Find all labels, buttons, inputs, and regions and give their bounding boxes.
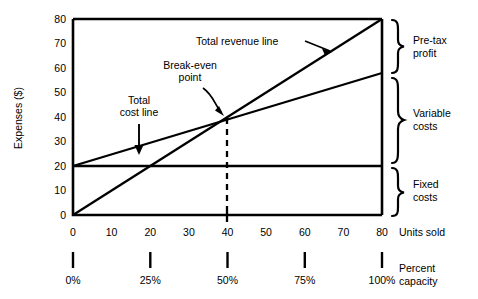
- total-revenue-arrow-shaft: [305, 41, 330, 51]
- y-axis-ticks: 80 70 60 50 40 30 20 10 0: [54, 13, 66, 221]
- x-tick-50: 50: [260, 226, 272, 238]
- units-sold-label: Units sold: [399, 226, 445, 238]
- break-even-label-line2: point: [179, 71, 202, 83]
- total-cost-label-line2: cost line: [120, 106, 159, 118]
- y-tick-70: 70: [54, 37, 66, 49]
- y-tick-40: 40: [54, 111, 66, 123]
- percent-tick-0: 0%: [65, 274, 80, 286]
- x-tick-0: 0: [70, 226, 76, 238]
- x-tick-70: 70: [338, 226, 350, 238]
- percent-tick-75: 75%: [294, 274, 315, 286]
- break-even-annotation: Break-even point: [163, 59, 224, 116]
- break-even-chart: 80 70 60 50 40 30 20 10 0 Expenses ($): [0, 0, 478, 299]
- y-tick-80: 80: [54, 13, 66, 25]
- y-tick-50: 50: [54, 86, 66, 98]
- y-tick-60: 60: [54, 62, 66, 74]
- break-even-label-line1: Break-even: [163, 59, 217, 71]
- fixed-costs-brace: [392, 168, 404, 216]
- pre-tax-profit-label-line2: profit: [413, 47, 436, 59]
- percent-capacity-line1: Percent: [399, 262, 435, 274]
- percent-tick-100: 100%: [369, 274, 396, 286]
- right-side-brackets: [392, 20, 404, 216]
- y-tick-30: 30: [54, 135, 66, 147]
- x-tick-80: 80: [376, 226, 388, 238]
- x-tick-30: 30: [183, 226, 195, 238]
- x-axis-ticks: 0 10 20 30 40 50 60 70 80: [70, 226, 388, 238]
- chart-canvas: 80 70 60 50 40 30 20 10 0 Expenses ($): [0, 0, 478, 299]
- pre-tax-profit-brace: [392, 20, 404, 73]
- total-cost-arrow-head: [135, 145, 144, 155]
- bracket-labels: Pre-tax profit Variable costs Fixed cost…: [413, 34, 451, 203]
- x-tick-40: 40: [222, 226, 234, 238]
- variable-costs-brace: [392, 78, 404, 163]
- percent-tick-50: 50%: [217, 274, 238, 286]
- percent-tick-25: 25%: [140, 274, 161, 286]
- y-tick-0: 0: [60, 209, 66, 221]
- y-tick-20: 20: [54, 160, 66, 172]
- fixed-costs-label-line1: Fixed: [413, 178, 439, 190]
- variable-costs-label-line1: Variable: [413, 107, 451, 119]
- total-revenue-annotation: Total revenue line: [196, 35, 332, 56]
- total-revenue-line-label: Total revenue line: [196, 35, 278, 47]
- total-cost-label-line1: Total: [128, 94, 150, 106]
- percent-capacity-label: Percent capacity: [399, 262, 438, 287]
- fixed-costs-label-line2: costs: [413, 191, 438, 203]
- y-axis-title: Expenses ($): [12, 87, 24, 149]
- y-axis-title-text: Expenses ($): [12, 87, 24, 149]
- x-tick-20: 20: [144, 226, 156, 238]
- y-tick-10: 10: [54, 184, 66, 196]
- x-tick-10: 10: [106, 226, 118, 238]
- percent-capacity-tick-marks: [73, 252, 382, 268]
- x-tick-60: 60: [299, 226, 311, 238]
- total-cost-annotation: Total cost line: [120, 94, 159, 155]
- break-even-arrow-head: [215, 106, 224, 116]
- percent-capacity-ticks: 0% 25% 50% 75% 100%: [65, 274, 395, 286]
- percent-capacity-line2: capacity: [399, 275, 438, 287]
- pre-tax-profit-label-line1: Pre-tax: [413, 34, 448, 46]
- variable-costs-label-line2: costs: [413, 120, 438, 132]
